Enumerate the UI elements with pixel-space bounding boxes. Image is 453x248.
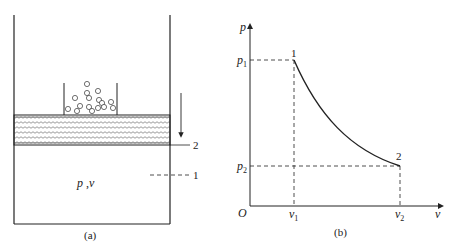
piston [14, 115, 170, 145]
process-curve [294, 60, 400, 166]
caption-b: (b) [334, 226, 347, 239]
position-2-label: 2 [193, 139, 199, 151]
diagram-canvas: 2 1 p ,v (a) p v O 1 2 p1 p2 [0, 0, 453, 248]
p1-tick-label: p1 [236, 53, 247, 69]
origin-label: O [238, 206, 247, 220]
x-axis-label: v [435, 207, 441, 221]
position-1-label: 1 [193, 169, 199, 181]
figure-a: 2 1 p ,v (a) [14, 15, 199, 242]
y-axis-label: p [239, 20, 246, 34]
pebbles [65, 81, 115, 113]
weight-box [64, 81, 117, 115]
v2-tick-label: v2 [395, 207, 404, 223]
point-1-label: 1 [291, 47, 297, 59]
caption-a: (a) [84, 229, 97, 242]
p2-tick-label: p2 [236, 159, 247, 175]
figure-b: p v O 1 2 p1 p2 v1 v2 (b) [236, 20, 441, 239]
point-2-label: 2 [396, 150, 402, 162]
v1-tick-label: v1 [289, 207, 298, 223]
gas-state-label: p ,v [76, 176, 95, 190]
